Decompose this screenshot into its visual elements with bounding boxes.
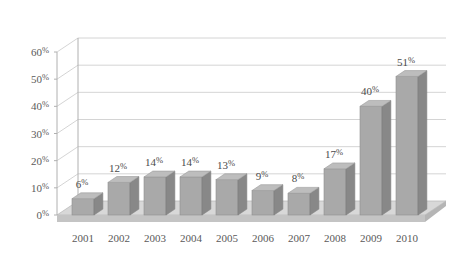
bar-2005 — [216, 174, 247, 215]
bar-front-face — [252, 191, 274, 215]
bar-front-face — [396, 76, 418, 215]
x-axis-label-2008: 2008 — [324, 232, 347, 244]
x-axis-label-2002: 2002 — [108, 232, 130, 244]
y-axis-label-40: 40% — [31, 99, 49, 112]
bar-value-label: 12% — [109, 161, 127, 174]
bar-2001 — [72, 193, 103, 215]
bar-2002 — [108, 177, 139, 215]
bar-2009 — [360, 100, 391, 215]
bar-side-face — [238, 174, 247, 215]
bar-front-face — [360, 106, 382, 215]
bar-chart: 0%10%20%30%40%50%60% 2001200220032004200… — [0, 0, 463, 265]
bar-front-face — [144, 177, 166, 215]
bar-side-face — [346, 163, 355, 215]
x-axis-label-2005: 2005 — [216, 232, 239, 244]
y-axis-label-10: 10% — [31, 181, 49, 194]
bar-value-label: 8% — [292, 171, 305, 184]
y-axis-label-0: 0% — [36, 208, 49, 221]
bar-2004 — [180, 171, 211, 215]
gridline-50 — [57, 65, 446, 79]
x-axis-label-2004: 2004 — [180, 232, 203, 244]
bar-2008 — [324, 163, 355, 215]
bar-value-label: 17% — [325, 147, 343, 160]
y-axis-label-20: 20% — [31, 154, 49, 167]
x-axis-label-2006: 2006 — [252, 232, 275, 244]
bar-front-face — [288, 193, 310, 215]
x-axis-labels: 2001200220032004200520062007200820092010 — [72, 232, 419, 244]
x-axis-label-2009: 2009 — [360, 232, 383, 244]
bar-side-face — [382, 100, 391, 215]
y-axis-label-50: 50% — [31, 72, 49, 85]
y-axis-label-60: 60% — [31, 45, 49, 58]
bar-value-label: 9% — [256, 169, 269, 182]
bar-value-label: 40% — [361, 84, 379, 97]
axis-lines — [54, 38, 78, 215]
bar-front-face — [72, 199, 94, 215]
bar-front-face — [324, 169, 346, 215]
bar-front-face — [180, 177, 202, 215]
bar-value-label: 51% — [397, 55, 415, 68]
x-axis-label-2010: 2010 — [396, 232, 419, 244]
x-axis-label-2003: 2003 — [144, 232, 167, 244]
gridline-60 — [57, 38, 446, 52]
x-axis-label-2007: 2007 — [288, 232, 311, 244]
bar-value-label: 14% — [181, 155, 199, 168]
y-axis-label-30: 30% — [31, 127, 49, 140]
bar-value-label: 6% — [76, 177, 89, 190]
bar-2006 — [252, 185, 283, 215]
y-axis-labels: 0%10%20%30%40%50%60% — [31, 45, 49, 221]
bar-front-face — [108, 182, 130, 215]
bar-side-face — [166, 171, 175, 215]
x-axis-label-2001: 2001 — [72, 232, 94, 244]
bar-2003 — [144, 171, 175, 215]
bar-side-face — [418, 71, 427, 215]
chart-canvas: 0%10%20%30%40%50%60% 2001200220032004200… — [0, 0, 463, 265]
bar-2007 — [288, 187, 319, 215]
bar-2010 — [396, 71, 427, 215]
floor-front-edge — [57, 215, 425, 222]
bar-side-face — [130, 177, 139, 215]
bar-side-face — [202, 171, 211, 215]
bar-front-face — [216, 180, 238, 215]
bar-value-label: 14% — [145, 155, 163, 168]
bar-value-label: 13% — [217, 158, 235, 171]
